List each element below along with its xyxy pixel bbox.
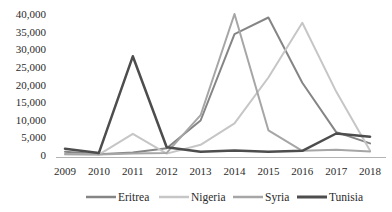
x-axis-tick-label: 2012 <box>156 165 178 177</box>
x-axis-tick-label: 2011 <box>122 165 144 177</box>
chart-container: 05,00010,00015,00020,00025,00030,00035,0… <box>0 0 392 212</box>
y-axis-tick-label: 25,000 <box>16 61 47 73</box>
legend-label-eritrea: Eritrea <box>118 191 149 203</box>
x-axis-tick-label: 2015 <box>257 165 280 177</box>
x-axis-tick-label: 2010 <box>88 165 111 177</box>
y-axis-tick-label: 20,000 <box>16 79 47 91</box>
x-axis-tick-label: 2017 <box>325 165 348 177</box>
x-axis-tick-label: 2018 <box>359 165 382 177</box>
y-axis-tick-label: 40,000 <box>16 8 47 20</box>
legend-label-nigeria: Nigeria <box>191 191 225 204</box>
migration-line-chart: 05,00010,00015,00020,00025,00030,00035,0… <box>0 0 392 212</box>
x-axis-tick-label: 2014 <box>224 165 247 177</box>
legend-label-tunisia: Tunisia <box>329 191 363 203</box>
y-axis-tick-label: 10,000 <box>16 114 47 126</box>
x-axis-tick-label: 2013 <box>190 165 213 177</box>
x-axis-tick-label: 2009 <box>54 165 77 177</box>
y-axis-tick-label: 35,000 <box>16 26 47 38</box>
y-axis-tick-label: 15,000 <box>16 96 47 108</box>
x-axis-tick-label: 2016 <box>291 165 314 177</box>
series-line-nigeria <box>65 23 370 155</box>
y-axis-tick-label: 5,000 <box>21 131 46 143</box>
y-axis-tick-label: 30,000 <box>16 43 47 55</box>
y-axis-tick-label: 0 <box>41 149 47 161</box>
legend-label-syria: Syria <box>265 191 289 204</box>
series-line-tunisia <box>65 56 370 153</box>
